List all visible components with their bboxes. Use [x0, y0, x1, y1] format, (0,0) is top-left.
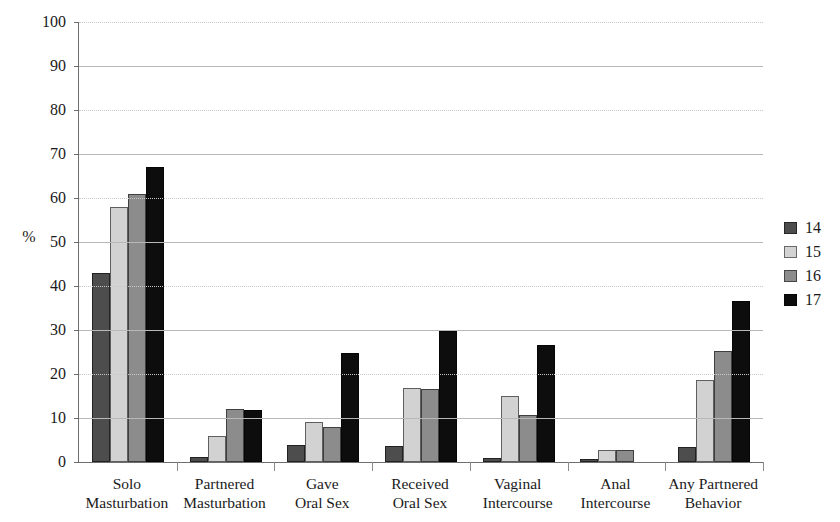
y-tick-label: 20: [6, 366, 66, 382]
gridline: [79, 418, 763, 419]
y-tick-mark: [74, 198, 79, 199]
y-tick-mark: [74, 242, 79, 243]
x-tick-label-line2: Oral Sex: [371, 493, 469, 512]
y-tick-label: 80: [6, 102, 66, 118]
x-tick-label-line1: Gave: [306, 475, 339, 492]
y-tick-mark: [74, 154, 79, 155]
bar: [110, 207, 128, 462]
bar: [598, 450, 616, 462]
x-tick-label-line1: Any Partnered: [668, 475, 758, 492]
y-tick-label: 0: [6, 454, 66, 470]
bar: [439, 331, 457, 462]
bar: [537, 345, 555, 462]
bar: [403, 388, 421, 462]
bar: [190, 457, 208, 462]
y-tick-label: 50: [6, 234, 66, 250]
gridline: [79, 242, 763, 243]
y-tick-label: 60: [6, 190, 66, 206]
gridline: [79, 66, 763, 67]
bar: [305, 422, 323, 462]
bar: [208, 436, 226, 462]
x-tick-mark: [470, 462, 471, 471]
chart-legend: 14151617: [784, 216, 840, 312]
x-tick-label: AnalIntercourse: [567, 474, 665, 512]
x-tick-mark: [177, 462, 178, 471]
legend-label: 16: [805, 268, 821, 284]
bar: [696, 380, 714, 462]
legend-item-15[interactable]: 15: [784, 240, 840, 264]
y-tick-label: 10: [6, 410, 66, 426]
gridline: [79, 330, 763, 331]
y-tick-mark: [74, 22, 79, 23]
y-tick-label: 70: [6, 146, 66, 162]
x-tick-label: PartneredMasturbation: [176, 474, 274, 512]
y-tick-label: 100: [6, 14, 66, 30]
legend-label: 14: [805, 220, 821, 236]
x-tick-label-line1: Received: [391, 475, 449, 492]
legend-item-17[interactable]: 17: [784, 288, 840, 312]
x-tick-label: Any PartneredBehavior: [664, 474, 762, 512]
gridline: [79, 286, 763, 287]
bar: [714, 351, 732, 462]
bar: [341, 353, 359, 462]
bar: [483, 458, 501, 462]
y-tick-mark: [74, 374, 79, 375]
x-tick-label: GaveOral Sex: [273, 474, 371, 512]
x-tick-label-line2: Masturbation: [78, 493, 176, 512]
legend-item-16[interactable]: 16: [784, 264, 840, 288]
legend-swatch-icon: [784, 294, 797, 306]
legend-swatch-icon: [784, 270, 797, 282]
bar: [501, 396, 519, 462]
legend-label: 15: [805, 244, 821, 260]
x-tick-label-line2: Intercourse: [567, 493, 665, 512]
bar: [128, 194, 146, 462]
legend-label: 17: [805, 292, 821, 308]
bar: [323, 427, 341, 462]
legend-swatch-icon: [784, 246, 797, 258]
bar: [678, 447, 696, 462]
y-tick-label: 40: [6, 278, 66, 294]
x-tick-mark: [763, 462, 764, 471]
legend-swatch-icon: [784, 222, 797, 234]
legend-item-14[interactable]: 14: [784, 216, 840, 240]
x-tick-label-line2: Masturbation: [176, 493, 274, 512]
x-tick-mark: [372, 462, 373, 471]
gridline: [79, 198, 763, 199]
y-tick-mark: [74, 462, 79, 463]
x-tick-mark: [274, 462, 275, 471]
plot-area: [78, 22, 763, 463]
bar: [287, 445, 305, 462]
x-tick-label-line2: Oral Sex: [273, 493, 371, 512]
x-tick-label-line2: Behavior: [664, 493, 762, 512]
gridline: [79, 110, 763, 111]
x-tick-label-line1: Anal: [600, 475, 630, 492]
x-tick-label-line1: Solo: [113, 475, 141, 492]
gridline: [79, 374, 763, 375]
y-tick-mark: [74, 418, 79, 419]
bar: [92, 273, 110, 462]
bar: [519, 415, 537, 462]
x-tick-mark: [665, 462, 666, 471]
y-tick-mark: [74, 110, 79, 111]
y-tick-label: 90: [6, 58, 66, 74]
bar: [385, 446, 403, 462]
bar-chart: % 0102030405060708090100 SoloMasturbatio…: [0, 0, 840, 522]
x-tick-label-line1: Vaginal: [494, 475, 541, 492]
x-tick-mark: [568, 462, 569, 471]
gridline: [79, 22, 763, 23]
bar: [580, 459, 598, 462]
gridline: [79, 154, 763, 155]
y-tick-mark: [74, 286, 79, 287]
x-tick-label: VaginalIntercourse: [469, 474, 567, 512]
x-tick-label-line1: Partnered: [195, 475, 254, 492]
x-tick-label-line2: Intercourse: [469, 493, 567, 512]
bar: [421, 389, 439, 462]
x-tick-label: SoloMasturbation: [78, 474, 176, 512]
bar: [732, 301, 750, 462]
bar: [616, 450, 634, 462]
y-tick-label: 30: [6, 322, 66, 338]
y-tick-mark: [74, 66, 79, 67]
y-tick-mark: [74, 330, 79, 331]
x-tick-label: ReceivedOral Sex: [371, 474, 469, 512]
